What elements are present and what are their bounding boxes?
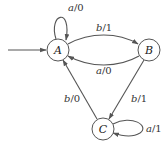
state-A-label: A [53,44,62,57]
label-B-A: a/0 [96,65,112,76]
state-diagram: A B C a/0 b/1 a/0 b/0 b/1 a/1 [0,0,163,145]
transition-C-C [113,120,143,136]
label-C-C: a/1 [146,123,162,134]
label-B-C: b/1 [131,93,147,104]
label-A-B: b/1 [96,22,112,33]
state-B-label: B [144,44,153,57]
transition-A-A [54,17,67,40]
label-C-A: b/0 [64,93,80,104]
transition-C-A [63,60,97,119]
state-B: B [138,39,160,61]
transition-B-C [109,60,144,119]
state-A: A [47,39,69,61]
state-C-label: C [99,123,108,136]
transition-A-B [68,35,138,44]
state-C: C [92,118,114,140]
label-A-A: a/0 [68,2,84,13]
transition-B-A [68,56,139,65]
